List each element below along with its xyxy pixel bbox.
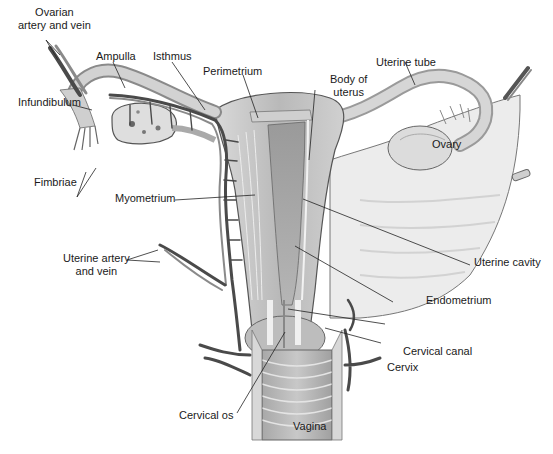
label-uterine-artery-vein-line2: and vein xyxy=(63,265,130,278)
label-ampulla: Ampulla xyxy=(96,50,136,63)
label-uterine-artery-vein-line1: Uterine artery xyxy=(63,252,130,265)
label-cervical-os: Cervical os xyxy=(179,409,233,422)
label-ovary: Ovary xyxy=(432,138,461,151)
label-endometrium: Endometrium xyxy=(426,294,491,307)
label-body-of-uterus-line1: Body of xyxy=(330,73,367,86)
label-myometrium: Myometrium xyxy=(115,192,176,205)
reproductive-anatomy-diagram: Ovarian artery and vein Ampulla Isthmus … xyxy=(0,0,553,454)
label-body-of-uterus: Body of uterus xyxy=(330,73,367,99)
label-isthmus: Isthmus xyxy=(153,50,192,63)
label-ovarian-artery-vein-line2: artery and vein xyxy=(18,19,91,32)
label-vagina: Vagina xyxy=(293,420,326,433)
anatomy-illustration xyxy=(0,0,553,454)
label-fimbriae: Fimbriae xyxy=(34,176,77,189)
label-cervix: Cervix xyxy=(387,361,418,374)
label-body-of-uterus-line2: uterus xyxy=(330,86,367,99)
label-perimetrium: Perimetrium xyxy=(203,65,262,78)
label-cervical-canal: Cervical canal xyxy=(403,345,472,358)
label-uterine-cavity: Uterine cavity xyxy=(474,256,541,269)
label-ovarian-artery-vein: Ovarian artery and vein xyxy=(18,6,91,32)
label-uterine-tube: Uterine tube xyxy=(376,56,436,69)
label-infundibulum: Infundibulum xyxy=(18,96,81,109)
label-ovarian-artery-vein-line1: Ovarian xyxy=(18,6,91,19)
label-uterine-artery-vein: Uterine artery and vein xyxy=(63,252,130,278)
